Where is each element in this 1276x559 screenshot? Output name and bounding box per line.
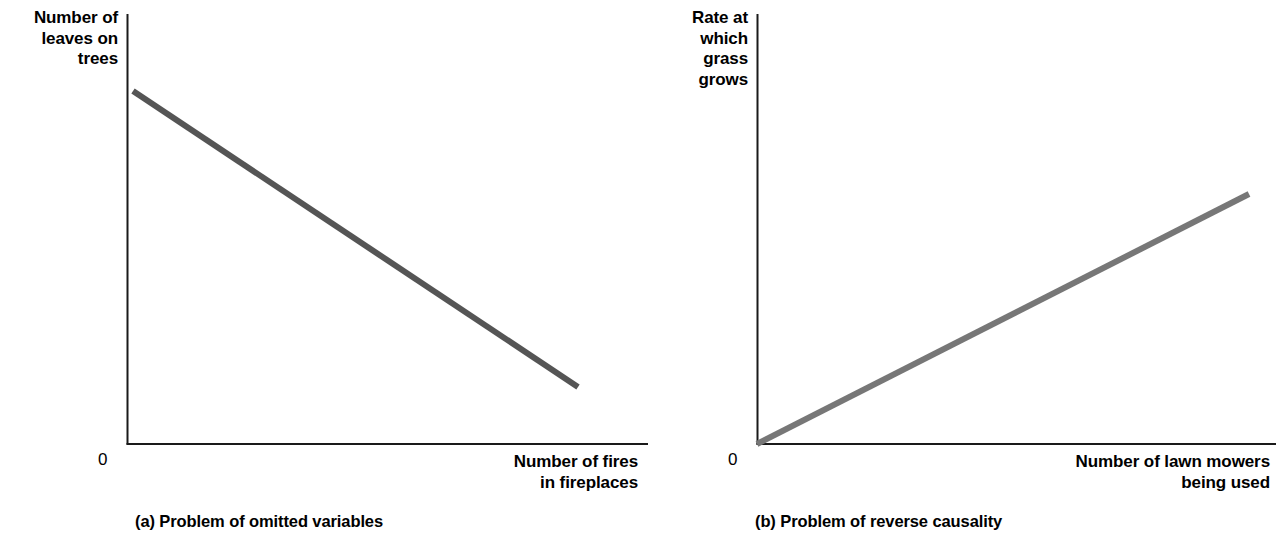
chart-panel-a: Number of leaves on trees Number of fire… [0,0,660,559]
chart-b-caption: (b) Problem of reverse causality [755,512,1002,531]
chart-b-trend-line [757,194,1249,444]
chart-panel-b: Rate at which grass grows Number of lawn… [630,0,1276,559]
chart-b-x-axis-label: Number of lawn mowers being used [960,452,1270,493]
chart-a-y-axis-label: Number of leaves on trees [0,8,118,70]
chart-a-x-axis-label: Number of fires in fireplaces [430,452,638,493]
chart-a-origin-label: 0 [98,450,107,470]
chart-a-trend-line [133,91,578,387]
chart-b-y-axis-label: Rate at which grass grows [630,8,748,90]
chart-a-caption: (a) Problem of omitted variables [135,512,383,531]
chart-b-origin-label: 0 [728,450,737,470]
figure-container: Number of leaves on trees Number of fire… [0,0,1276,559]
chart-a-plot [0,0,660,500]
